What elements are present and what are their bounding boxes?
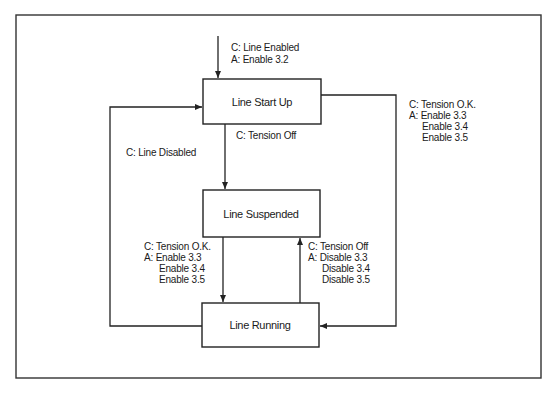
entry-action: A: Enable 3.2	[231, 54, 289, 65]
running-to-suspended-condition: C: Tension Off	[308, 241, 369, 252]
state-label: Line Suspended	[223, 208, 298, 220]
suspended-to-running-action-2: Enable 3.4	[159, 263, 205, 274]
state-label: Line Start Up	[232, 96, 292, 108]
state-line-running[interactable]: Line Running	[202, 303, 319, 347]
startup-to-running-action: A: Enable 3.3	[409, 110, 467, 121]
state-line-suspended[interactable]: Line Suspended	[203, 190, 320, 237]
suspended-to-running-action-3: Enable 3.5	[159, 274, 205, 285]
suspended-to-running-action: A: Enable 3.3	[144, 252, 202, 263]
running-to-suspended-action-2: Disable 3.4	[322, 263, 370, 274]
running-to-suspended-action: A: Disable 3.3	[308, 252, 368, 263]
startup-to-suspended-condition: C: Tension Off	[236, 130, 297, 141]
state-line-start-up[interactable]: Line Start Up	[203, 79, 321, 124]
startup-to-running-action-2: Enable 3.4	[422, 121, 468, 132]
running-to-suspended-action-3: Disable 3.5	[322, 274, 370, 285]
arrow-startup-to-running	[320, 95, 396, 326]
running-to-startup-condition: C: Line Disabled	[126, 147, 196, 158]
suspended-to-running-condition: C: Tension O.K.	[144, 241, 211, 252]
arrow-running-to-startup	[110, 107, 202, 326]
entry-condition: C: Line Enabled	[231, 42, 299, 53]
startup-to-running-action-3: Enable 3.5	[422, 132, 468, 143]
startup-to-running-condition: C: Tension O.K.	[409, 99, 476, 110]
state-diagram: C: Line Enabled A: Enable 3.2 Line Start…	[0, 0, 555, 393]
state-label: Line Running	[229, 319, 290, 331]
